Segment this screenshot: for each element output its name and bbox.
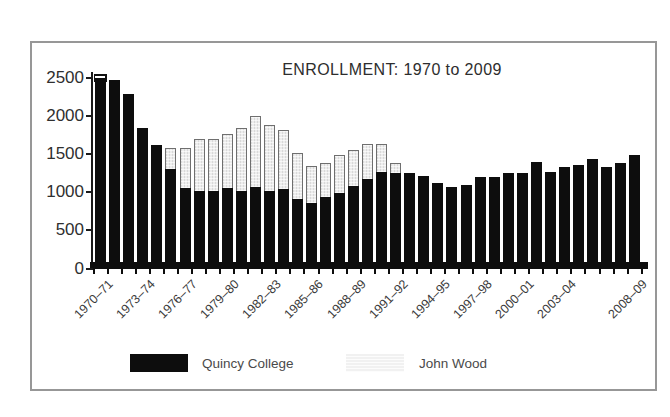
x-axis-tick (191, 269, 193, 274)
y-axis-tick-label: 1500 (38, 144, 84, 164)
bar-1989–90 (362, 144, 373, 265)
bar-2000–01 (517, 173, 528, 265)
x-axis-tick (205, 269, 207, 274)
y-axis-tick-label: 2500 (38, 68, 84, 88)
bar-1990–91 (376, 144, 387, 265)
bar-1971–72 (109, 80, 120, 265)
y-axis-tick-label: 2000 (38, 106, 84, 126)
john-wood-segment (362, 144, 373, 179)
quincy-college-segment (629, 155, 640, 265)
x-axis-tick (93, 269, 95, 274)
quincy-college-segment (587, 159, 598, 265)
bar-1974–75 (151, 145, 162, 265)
bar-1988–89 (348, 150, 359, 265)
bar-1973–74 (137, 128, 148, 265)
quincy-college-segment (320, 197, 331, 265)
x-axis-tick (472, 269, 474, 274)
legend-label-john-wood: John Wood (419, 356, 487, 371)
john-wood-segment (390, 163, 401, 173)
bar-1980–81 (236, 128, 247, 265)
quincy-college-segment (236, 191, 247, 265)
x-axis-tick (318, 269, 320, 274)
plot-area: 05001000150020002500 1970–711973–741976–… (32, 43, 655, 389)
quincy-college-segment (292, 199, 303, 265)
bar-1976–77 (180, 148, 191, 265)
x-axis-tick-label: 2008–09 (587, 277, 649, 339)
bar-1975–76 (165, 148, 176, 265)
quincy-college-segment (432, 183, 443, 265)
john-wood-segment (264, 125, 275, 191)
bar-1986–87 (320, 163, 331, 265)
quincy-college-segment (489, 177, 500, 265)
bar-2004–05 (573, 165, 584, 265)
quincy-college-segment (109, 80, 120, 265)
john-wood-segment (292, 153, 303, 199)
quincy-college-segment (137, 128, 148, 265)
x-axis-tick (332, 269, 334, 274)
x-axis-tick (346, 269, 348, 274)
bar-1977–78 (194, 139, 205, 265)
x-axis-tick (233, 269, 235, 274)
bar-2005–06 (587, 159, 598, 265)
x-axis-tick (261, 269, 263, 274)
quincy-college-segment (165, 169, 176, 265)
y-axis-tick (86, 115, 93, 117)
bar-2002–03 (545, 172, 556, 265)
x-axis-tick (416, 269, 418, 274)
x-axis-tick (627, 269, 629, 274)
y-axis-tick (86, 229, 93, 231)
x-axis-tick (121, 269, 123, 274)
bar-1992–93 (404, 173, 415, 265)
bar-1999–00 (503, 173, 514, 265)
legend: Quincy College John Wood (32, 352, 655, 376)
john-wood-segment (278, 130, 289, 189)
bar-1978–79 (208, 139, 219, 265)
quincy-college-segment (306, 203, 317, 265)
x-axis-tick (486, 269, 488, 274)
x-axis-tick (289, 269, 291, 274)
quincy-college-segment (151, 145, 162, 265)
quincy-college-segment (531, 162, 542, 265)
x-axis-tick (584, 269, 586, 274)
bar-1984–85 (292, 153, 303, 265)
quincy-college-segment (615, 163, 626, 265)
bar-1979–80 (222, 134, 233, 265)
x-axis-tick (177, 269, 179, 274)
quincy-college-segment (264, 191, 275, 265)
bar-1970–71 (95, 78, 106, 265)
x-axis-tick (374, 269, 376, 274)
x-axis-tick (360, 269, 362, 274)
bar-1987–88 (334, 155, 345, 265)
legend-swatch-john-wood (346, 354, 404, 372)
john-wood-segment (208, 139, 219, 192)
quincy-college-segment (475, 177, 486, 265)
x-axis-tick (388, 269, 390, 274)
john-wood-segment (348, 150, 359, 186)
x-axis-tick (163, 269, 165, 274)
x-axis-tick (500, 269, 502, 274)
y-axis-tick-label: 1000 (38, 182, 84, 202)
john-wood-segment (194, 139, 205, 191)
y-axis (91, 72, 93, 269)
quincy-college-segment (517, 173, 528, 265)
john-wood-segment (222, 134, 233, 188)
john-wood-segment (334, 155, 345, 193)
x-axis-tick (514, 269, 516, 274)
quincy-college-segment (194, 191, 205, 265)
y-axis-tick (86, 153, 93, 155)
y-axis-tick (86, 77, 93, 79)
quincy-college-segment (348, 186, 359, 265)
bar-1991–92 (390, 163, 401, 265)
x-axis-tick (570, 269, 572, 274)
quincy-college-segment (390, 173, 401, 265)
john-wood-segment (250, 116, 261, 186)
enrollment-chart: ENROLLMENT: 1970 to 2009 050010001500200… (0, 0, 670, 417)
y-axis-tick-label: 0 (38, 259, 84, 279)
john-wood-segment (306, 166, 317, 203)
quincy-college-segment (208, 191, 219, 265)
bar-1998–99 (489, 177, 500, 265)
bar-1994–95 (432, 183, 443, 265)
legend-swatch-quincy-college (130, 354, 188, 372)
john-wood-segment (376, 144, 387, 172)
x-axis-tick (641, 269, 643, 274)
